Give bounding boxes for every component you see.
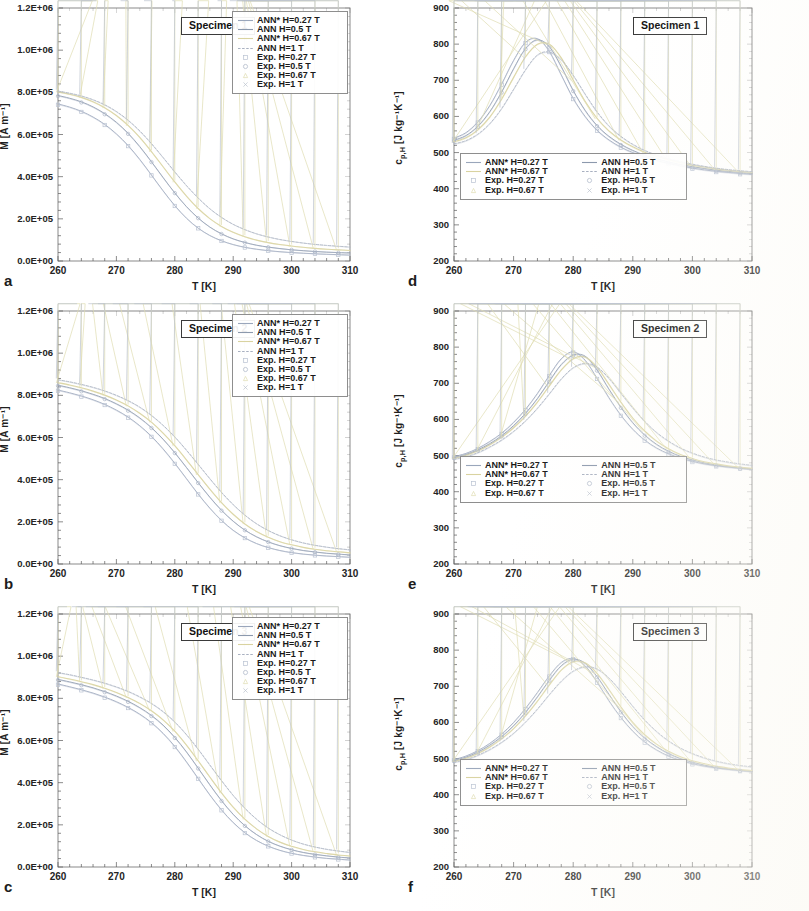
- ytick-label: 1.0E+06: [4, 651, 53, 661]
- specimen-tag-d: Specimen 1: [633, 17, 707, 35]
- ytick-label: 0.0E+00: [4, 559, 53, 569]
- ytick-label: 2.0E+05: [4, 820, 53, 830]
- legend-c: ANN* H=0.27 TANN H=0.5 TANN* H=0.67 TANN…: [232, 617, 348, 700]
- legend-swatch-icon: [237, 677, 254, 686]
- ytick-label: 200: [400, 559, 449, 569]
- legend-swatch-icon: [581, 461, 598, 470]
- legend-item: Exp. H=1 T: [581, 489, 680, 498]
- legend-item: Exp. H=1 T: [237, 80, 341, 89]
- ytick-label: 800: [400, 342, 449, 352]
- legend-swatch-icon: [581, 470, 598, 479]
- xtick-label: 270: [98, 266, 134, 276]
- ytick-label: 700: [400, 681, 449, 691]
- xtick-label: 300: [274, 569, 310, 579]
- ytick-label: 900: [400, 306, 449, 316]
- ytick-label: 500: [400, 148, 449, 158]
- ytick-label: 0.0E+00: [4, 862, 53, 872]
- legend-swatch-icon: [581, 782, 598, 791]
- ytick-label: 4.0E+05: [4, 778, 53, 788]
- xtick-label: 260: [436, 872, 472, 882]
- xtick-label: 270: [496, 266, 532, 276]
- legend-swatch-icon: [237, 71, 254, 80]
- xtick-label: 300: [274, 872, 310, 882]
- ytick-label: 500: [400, 754, 449, 764]
- xtick-label: 290: [615, 266, 651, 276]
- ytick-label: 2.0E+05: [4, 214, 53, 224]
- legend-item: Exp. H=1 T: [237, 383, 341, 392]
- legend-swatch-icon: [237, 383, 254, 392]
- legend-swatch-icon: [237, 659, 254, 668]
- figure-root: 0.0E+002.0E+054.0E+056.0E+058.0E+051.0E+…: [0, 0, 809, 911]
- legend-label: Exp. H=1 T: [257, 686, 303, 695]
- legend-d: ANN* H=0.27 TANN H=0.5 TANN* H=0.67 TANN…: [460, 153, 687, 200]
- legend-label: Exp. H=1 T: [257, 80, 303, 89]
- legend-swatch-icon: [581, 773, 598, 782]
- legend-swatch-icon: [237, 16, 254, 25]
- xtick-label: 300: [674, 872, 710, 882]
- panel-f: 2003004005006007008009002602702802903003…: [404, 606, 808, 909]
- xtick-label: 310: [734, 266, 770, 276]
- legend-swatch-icon: [237, 34, 254, 43]
- legend-swatch-icon: [465, 773, 482, 782]
- plot-area-d: [404, 0, 756, 265]
- ytick-label: 8.0E+05: [4, 693, 53, 703]
- ytick-label: 900: [400, 609, 449, 619]
- xtick-label: 260: [40, 872, 76, 882]
- panel-b: 0.0E+002.0E+054.0E+056.0E+058.0E+051.0E+…: [0, 303, 404, 606]
- panel-letter-d: d: [408, 273, 417, 288]
- legend-swatch-icon: [465, 176, 482, 185]
- legend-swatch-icon: [581, 158, 598, 167]
- legend-swatch-icon: [465, 792, 482, 801]
- ytick-label: 0.0E+00: [4, 256, 53, 266]
- xtick-label: 300: [274, 266, 310, 276]
- xtick-label: 280: [555, 266, 591, 276]
- legend-swatch-icon: [237, 640, 254, 649]
- legend-swatch-icon: [237, 328, 254, 337]
- legend-swatch-icon: [465, 470, 482, 479]
- xtick-label: 280: [157, 266, 193, 276]
- ytick-label: 500: [400, 451, 449, 461]
- ytick-label: 700: [400, 378, 449, 388]
- panel-a: 0.0E+002.0E+054.0E+056.0E+058.0E+051.0E+…: [0, 0, 404, 303]
- legend-a: ANN* H=0.27 TANN H=0.5 TANN* H=0.67 TANN…: [232, 11, 348, 94]
- legend-item: Exp. H=1 T: [581, 792, 680, 801]
- ytick-label: 600: [400, 111, 449, 121]
- legend-swatch-icon: [237, 44, 254, 53]
- specimen-tag-e: Specimen 2: [633, 320, 707, 338]
- legend-swatch-icon: [237, 356, 254, 365]
- ytick-label: 400: [400, 790, 449, 800]
- legend-label: Exp. H=0.67 T: [485, 489, 544, 498]
- panel-letter-b: b: [4, 576, 13, 591]
- ytick-label: 1.2E+06: [4, 3, 53, 13]
- xtick-label: 280: [157, 569, 193, 579]
- legend-swatch-icon: [237, 622, 254, 631]
- legend-swatch-icon: [237, 337, 254, 346]
- xtick-label: 260: [40, 569, 76, 579]
- xtick-label: 310: [332, 569, 368, 579]
- ytick-label: 200: [400, 256, 449, 266]
- ytick-label: 4.0E+05: [4, 475, 53, 485]
- x-axis-label-b: T [K]: [164, 583, 244, 595]
- ytick-label: 1.2E+06: [4, 306, 53, 316]
- ytick-label: 8.0E+05: [4, 390, 53, 400]
- legend-swatch-icon: [237, 631, 254, 640]
- legend-swatch-icon: [237, 319, 254, 328]
- legend-swatch-icon: [237, 62, 254, 71]
- xtick-label: 290: [215, 872, 251, 882]
- xtick-label: 290: [615, 569, 651, 579]
- ytick-label: 400: [400, 487, 449, 497]
- legend-swatch-icon: [465, 764, 482, 773]
- legend-swatch-icon: [237, 80, 254, 89]
- legend-swatch-icon: [465, 479, 482, 488]
- xtick-label: 290: [615, 872, 651, 882]
- xtick-label: 280: [555, 872, 591, 882]
- legend-swatch-icon: [581, 167, 598, 176]
- legend-label: Exp. H=0.67 T: [485, 792, 544, 801]
- legend-item: Exp. H=1 T: [237, 686, 341, 695]
- x-axis-label-c: T [K]: [164, 886, 244, 898]
- specimen-tag-f: Specimen 3: [633, 623, 707, 641]
- xtick-label: 290: [215, 266, 251, 276]
- ytick-label: 600: [400, 414, 449, 424]
- ytick-label: 600: [400, 717, 449, 727]
- xtick-label: 280: [555, 569, 591, 579]
